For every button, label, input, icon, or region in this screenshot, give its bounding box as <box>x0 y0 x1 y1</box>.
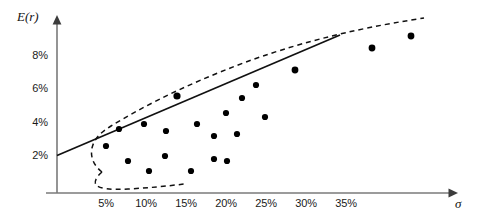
data-point <box>103 143 109 149</box>
x-tick-label-20: 20% <box>206 197 246 209</box>
data-point <box>146 168 152 174</box>
axis-group <box>46 15 458 198</box>
x-tick-label-10: 10% <box>126 197 166 209</box>
data-point <box>116 126 122 132</box>
data-point <box>253 82 259 88</box>
data-point <box>408 33 415 40</box>
frontier-lower-branch <box>95 172 184 189</box>
data-point <box>162 153 168 159</box>
x-axis-title: σ <box>455 196 461 212</box>
data-point <box>292 67 299 74</box>
chart-canvas <box>0 0 485 222</box>
capital-allocation-line <box>57 35 340 156</box>
data-point <box>194 121 200 127</box>
x-tick-label-30: 30% <box>286 197 326 209</box>
data-point <box>211 156 217 162</box>
y-axis-arrow-icon <box>53 15 62 25</box>
data-point <box>234 131 240 137</box>
data-point <box>211 133 217 139</box>
y-tick-label-2: 2% <box>20 149 48 161</box>
efficient-frontier-chart: 8% 6% 4% 2% 5% 10% 15% 20% 25% 30% 35% E… <box>0 0 485 222</box>
minimum-variance-frontier-curve <box>91 18 424 189</box>
scatter-points-group <box>103 33 415 175</box>
data-point <box>188 168 194 174</box>
y-tick-label-8: 8% <box>20 49 48 61</box>
data-point <box>262 114 268 120</box>
data-point <box>223 110 229 116</box>
data-point <box>369 45 376 52</box>
data-point <box>173 92 180 99</box>
data-point <box>163 128 169 134</box>
y-tick-label-4: 4% <box>20 116 48 128</box>
data-point <box>239 95 245 101</box>
y-axis-title: E(r) <box>17 9 39 25</box>
x-tick-label-15: 15% <box>166 197 206 209</box>
data-point <box>141 121 147 127</box>
x-tick-label-35: 35% <box>326 197 366 209</box>
data-point <box>224 158 230 164</box>
y-tick-label-6: 6% <box>20 82 48 94</box>
frontier-upper-branch <box>91 18 424 172</box>
data-point <box>125 158 131 164</box>
x-tick-label-5: 5% <box>86 197 126 209</box>
x-tick-label-25: 25% <box>246 197 286 209</box>
